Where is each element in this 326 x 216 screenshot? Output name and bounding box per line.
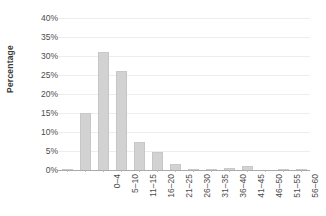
x-axis-tick-label: 26–30 [202,174,213,214]
x-axis-tick-mark [175,170,176,172]
x-axis-tick-mark [103,170,104,172]
x-axis-tick-label: 51–55 [292,174,303,214]
x-axis-tick-mark [121,170,122,172]
bar [134,142,145,171]
x-axis-tick-label: 56–60 [310,174,321,214]
x-axis-tick-label: 21–25 [184,174,195,214]
y-axis-tick-label: 10% [18,128,58,137]
y-axis-tick-label: 20% [18,90,58,99]
x-axis-tick-mark [301,170,302,172]
x-axis-tick-label: 0–4 [112,174,123,214]
y-axis-tick-label: 5% [18,147,58,156]
x-axis-tick-mark [247,170,248,172]
x-axis-tick-label: 11–15 [148,174,159,214]
y-axis-tick-label: 30% [18,52,58,61]
x-axis-tick-mark [67,170,68,172]
bar [116,71,127,170]
x-axis-tick-mark [85,170,86,172]
x-axis-tick-mark [265,170,266,172]
plot-area [58,18,310,170]
bar [152,152,163,170]
x-axis-tick-label: 46–50 [274,174,285,214]
x-axis-tick-label: 31–35 [220,174,231,214]
x-axis-tick-label: 41–45 [256,174,267,214]
x-axis-tick-labels: 0–45–1011–1516–2021–2526–3031–3536–4041–… [58,170,310,216]
x-axis-tick-mark [139,170,140,172]
y-axis-tick-label: 40% [18,14,58,23]
x-axis-tick-mark [229,170,230,172]
bar-chart: Percentage 40%35%30%25%20%15%10%5%0% 0–4… [0,0,326,216]
y-axis-tick-label: 0% [18,166,58,175]
x-axis-tick-mark [211,170,212,172]
x-axis-tick-mark [283,170,284,172]
x-axis-tick-label: 36–40 [238,174,249,214]
bars-layer [58,18,310,170]
y-axis-tick-label: 35% [18,33,58,42]
bar [98,52,109,170]
y-axis-tick-label: 25% [18,71,58,80]
x-axis-tick-label: 5–10 [130,174,141,214]
bar [80,113,91,170]
x-axis-tick-mark [157,170,158,172]
x-axis-tick-label: 16–20 [166,174,177,214]
x-axis-tick-mark [193,170,194,172]
y-axis-tick-label: 15% [18,109,58,118]
